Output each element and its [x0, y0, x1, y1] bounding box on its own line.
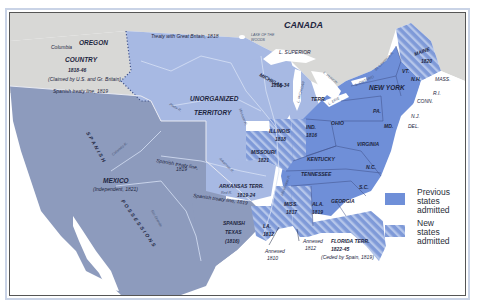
state-indiana [291, 119, 306, 161]
label-md: MD. [384, 123, 393, 129]
label-spanish-texas-date: (1816) [225, 238, 240, 244]
label-mexico-indep: (Independent, 1821) [93, 186, 138, 192]
label-virginia: VIRGINIA [357, 141, 380, 147]
label-lake-woods-1: LAKE OF THE [251, 33, 275, 37]
label-vt: VT. [402, 68, 409, 74]
label-lake-woods-2: WOODS [251, 38, 266, 42]
label-la-date: 1812 [263, 231, 274, 237]
label-columbia: Columbia [51, 44, 72, 50]
label-miss-date: 1817 [286, 209, 297, 215]
state-alabama [291, 186, 313, 229]
label-spanish-texas-2: TEXAS [225, 229, 242, 235]
label-canada: CANADA [284, 20, 323, 30]
label-new-york: NEW YORK [369, 84, 406, 91]
label-red-r: Red R. [221, 191, 232, 195]
label-ohio: OHIO [331, 120, 344, 126]
label-tennessee: TENNESSEE [301, 171, 332, 177]
label-territory: TERRITORY [194, 109, 232, 116]
label-sc: S.C. [359, 184, 369, 190]
label-oregon-dates: 1818-46 [68, 67, 87, 73]
label-annexed-1810-1: Annexed [264, 248, 285, 254]
label-nj: N.J. [411, 113, 420, 119]
label-annexed-1810-2: 1810 [267, 255, 278, 261]
label-annexed-1812-1: Annexed [302, 238, 323, 244]
map-frame: CANADA OREGON Columbia COUNTRY 1818-46 (… [9, 12, 466, 296]
label-florida-ceded: (Ceded by Spain, 1819) [321, 254, 374, 260]
label-illinois-date: 1818 [275, 136, 286, 142]
lake-of-the-woods [239, 35, 245, 39]
label-l-superior: L. SUPERIOR [279, 49, 311, 55]
label-nh: N.H. [411, 76, 421, 82]
label-pa: PA. [373, 108, 381, 114]
label-treaty-gb: Treaty with Great Britain, 1818 [151, 33, 219, 39]
legend-new-3: admitted [417, 236, 450, 246]
label-ri: R.I. [433, 90, 441, 96]
legend-previous-3: admitted [417, 205, 450, 215]
label-spanish-texas-1: SPANISH [223, 220, 245, 226]
label-annexed-1812-2: 1812 [305, 245, 316, 251]
label-oregon: OREGON [79, 39, 108, 46]
label-florida-terr: FLORIDA TERR. [331, 238, 369, 244]
label-spanish-treaty-mid2: 1819 [176, 166, 187, 172]
label-conn: CONN. [417, 98, 433, 104]
us-expansion-map: CANADA OREGON Columbia COUNTRY 1818-46 (… [10, 13, 465, 295]
label-florida-dates: 1822-45 [331, 246, 350, 252]
label-oregon-claim: (Claimed by U.S. and Gr. Britain) [48, 76, 121, 82]
label-missouri-date: 1821 [258, 157, 269, 163]
label-arkansas-terr: ARKANSAS TERR. [218, 183, 264, 189]
label-missouri: MISSOURI [251, 149, 276, 155]
label-kentucky: KENTUCKY [307, 156, 335, 162]
label-miss: MISS. [284, 201, 298, 207]
label-oregon-country: COUNTRY [65, 56, 98, 63]
label-ala-date: 1819 [312, 209, 323, 215]
label-ind: IND. [306, 124, 316, 130]
label-nc: N.C. [366, 164, 376, 170]
label-unorganized: UNORGANIZED [190, 95, 239, 102]
label-georgia: GEORGIA [331, 198, 355, 204]
label-maine-date: 1820 [421, 58, 432, 64]
legend-swatch-new [385, 225, 405, 237]
label-mass: MASS. [435, 76, 451, 82]
legend-swatch-previous [385, 193, 405, 205]
label-la: LA. [263, 223, 271, 229]
label-michigan-terr-2: TERR. [311, 96, 326, 102]
label-mexico: MEXICO [103, 177, 129, 184]
label-arkansas-terr-dates: 1819-24 [237, 192, 256, 198]
label-ind-date: 1816 [306, 132, 317, 138]
label-del: DEL. [408, 123, 419, 129]
label-ala: ALA. [311, 201, 324, 207]
label-illinois: ILLINOIS [269, 128, 291, 134]
label-spanish-treaty-line-top: Spanish treaty line, 1819 [53, 88, 108, 94]
label-michigan-terr-dates: 1818-34 [271, 82, 290, 88]
